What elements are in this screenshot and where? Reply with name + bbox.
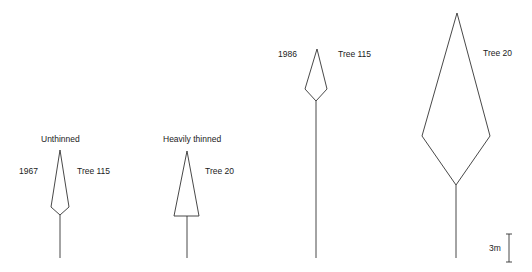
crown-tree-4: [422, 13, 490, 185]
label-tree-4: Tree 20: [483, 48, 512, 58]
label-tree-3: Tree 115: [338, 49, 371, 59]
label-tree-2: Tree 20: [205, 166, 234, 176]
label-tree-1: Tree 115: [77, 166, 110, 176]
scale-bar: [506, 234, 512, 262]
title-unthinned: Unthinned: [41, 134, 80, 144]
year-1986: 1986: [278, 49, 297, 59]
scale-bar-label: 3m: [489, 243, 501, 253]
crown-tree-2: [174, 151, 199, 216]
year-1967: 1967: [19, 166, 38, 176]
crown-tree-1: [51, 150, 69, 215]
title-heavily-thinned: Heavily thinned: [163, 134, 221, 144]
crown-tree-3: [305, 49, 327, 101]
